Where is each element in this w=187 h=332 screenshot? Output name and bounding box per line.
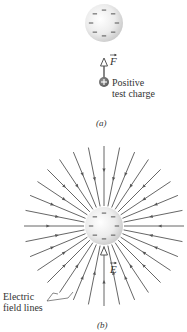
field-line [124,210,183,222]
test-charge-label-line1: Positive [112,77,144,88]
field-line [37,237,87,270]
field-line-arrowhead [102,280,105,284]
field-line [88,246,100,305]
field-line-arrowhead [158,224,162,227]
field-line [37,182,87,215]
panel-b-caption: (b) [97,320,108,331]
field-line-arrowhead [93,271,96,275]
field-line [121,182,171,215]
test-charge-label-line2: test charge [112,88,155,99]
field-lines-label-line1: Electric [3,291,34,302]
force-vector-arrowhead [101,58,108,66]
field-line [124,230,183,242]
electric-field-diagram [0,0,187,332]
field-line [88,148,100,207]
field-line [60,243,93,293]
field-vector-arrowhead [101,247,108,255]
field-line [60,159,93,209]
field-line-arrowhead [102,168,105,172]
panel-a [85,4,123,87]
panel-a-caption: (a) [96,118,107,129]
field-label: E [110,264,117,275]
field-line-arrowhead [149,215,153,218]
field-line [121,237,171,270]
field-line-arrowhead [112,177,115,181]
field-line [115,159,148,209]
field-line [108,246,120,305]
label-leader-line [47,292,73,301]
field-line [108,148,120,207]
field-line-arrowhead [149,234,153,237]
force-label: F [110,56,117,67]
field-line-arrowhead [55,215,59,218]
field-line [26,230,85,242]
field-line [115,243,148,293]
field-line-arrowhead [55,234,59,237]
panel-b [24,146,184,306]
field-line-arrowhead [46,224,50,227]
field-line-arrowhead [93,177,96,181]
field-line [26,210,85,222]
field-lines-label-line2: field lines [3,302,43,313]
